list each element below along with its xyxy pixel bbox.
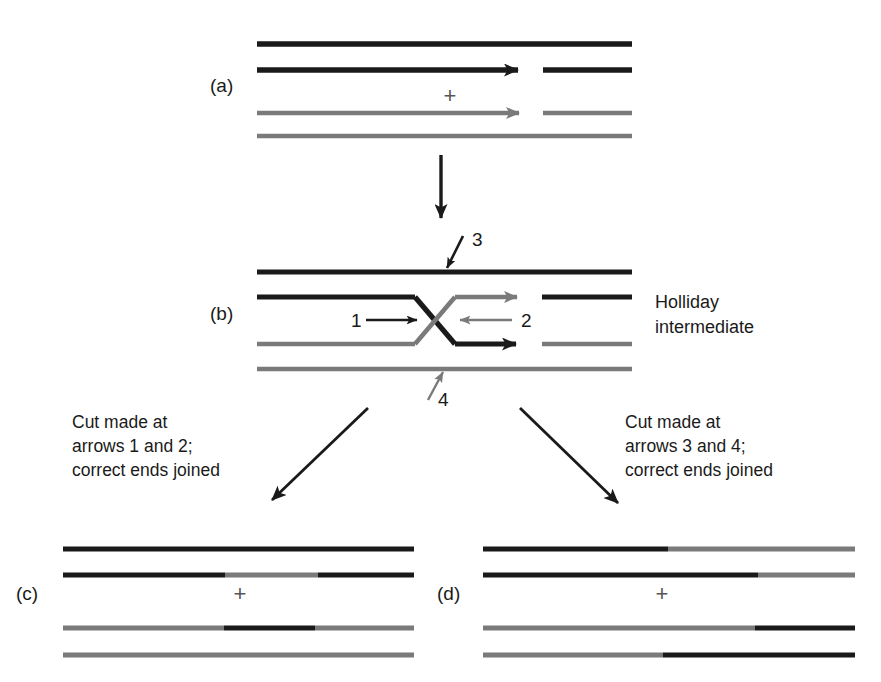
holliday-caption-line2: intermediate xyxy=(655,317,754,337)
cut-arrow-3 xyxy=(447,236,463,268)
arrow-b-to-c xyxy=(272,408,368,500)
holliday-caption-line1: Holliday xyxy=(655,292,719,312)
arrow-b-to-d xyxy=(520,408,618,503)
panel-d-plus: + xyxy=(656,581,669,606)
cut-arrow-4-label: 4 xyxy=(438,389,449,410)
cut-arrow-1-label: 1 xyxy=(351,310,362,331)
panel-d: (d) + xyxy=(437,549,855,655)
left-annotation-line1: Cut made at xyxy=(72,412,167,432)
cut-arrow-2-label: 2 xyxy=(521,310,532,331)
right-annotation-line2: arrows 3 and 4; xyxy=(625,436,746,456)
panel-c-plus: + xyxy=(234,581,247,606)
left-annotation-line3: correct ends joined xyxy=(72,460,220,480)
panel-a-label: (a) xyxy=(210,75,233,96)
panel-b: (b) 3 1 2 4 Holliday intermediate xyxy=(210,229,754,410)
panel-b-label: (b) xyxy=(210,303,233,324)
right-annotation-line1: Cut made at xyxy=(625,412,720,432)
left-annotation-line2: arrows 1 and 2; xyxy=(72,436,193,456)
panel-a-plus: + xyxy=(444,83,457,108)
panel-c: (c) + xyxy=(16,549,414,655)
right-annotation-line3: correct ends joined xyxy=(625,460,773,480)
left-annotation: Cut made at arrows 1 and 2; correct ends… xyxy=(72,412,220,480)
right-annotation: Cut made at arrows 3 and 4; correct ends… xyxy=(625,412,773,480)
panel-a: (a) + xyxy=(210,44,632,136)
cut-arrow-3-label: 3 xyxy=(472,229,483,250)
figure-canvas: (a) + (b) 3 1 2 xyxy=(0,0,881,682)
panel-d-label: (d) xyxy=(437,583,460,604)
recombination-diagram: (a) + (b) 3 1 2 xyxy=(0,0,881,682)
panel-c-label: (c) xyxy=(16,583,38,604)
